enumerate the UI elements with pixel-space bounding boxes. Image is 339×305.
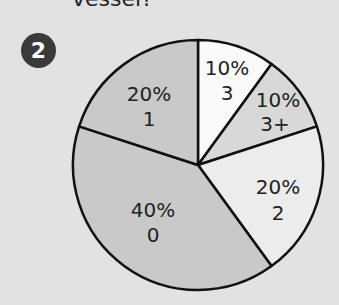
slice-0-pct: 40% xyxy=(131,198,175,222)
slice-3plus-pct: 10% xyxy=(256,88,300,112)
slice-1-pct: 20% xyxy=(127,82,171,106)
slice-2-cat: 2 xyxy=(272,201,285,225)
pie-chart: 10% 3 10% 3+ 20% 2 40% 0 20% 1 xyxy=(0,0,339,305)
slice-3-cat: 3 xyxy=(221,81,234,105)
slice-1-cat: 1 xyxy=(143,107,156,131)
slice-3-pct: 10% xyxy=(205,56,249,80)
slice-3plus-cat: 3+ xyxy=(260,112,289,136)
slice-2-pct: 20% xyxy=(256,175,300,199)
slice-0-cat: 0 xyxy=(147,223,160,247)
